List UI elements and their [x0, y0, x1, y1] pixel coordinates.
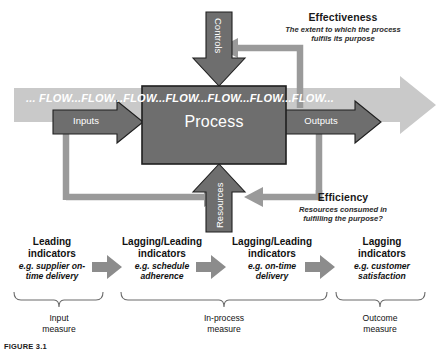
- flow-band-text: ... FLOW...FLOW...FLOW...FLOW...FLOW...F…: [26, 92, 334, 104]
- controls-label: Controls: [212, 18, 223, 53]
- efficiency-heading: Efficiency: [273, 192, 413, 204]
- indicator-4-example-line2: satisfaction: [338, 272, 426, 282]
- process-effectiveness-diagram: ... FLOW...FLOW...FLOW...FLOW...FLOW...F…: [0, 0, 438, 351]
- indicator-1-title-line1: Leading: [12, 236, 92, 248]
- indicator-2-example-line2: adherence: [114, 272, 210, 282]
- indicator-3-example-line2: delivery: [224, 272, 320, 282]
- outputs-label: Outputs: [288, 116, 354, 127]
- brace-in-process-measure: [121, 292, 327, 307]
- efficiency-description-line2: fulfilling the purpose?: [268, 215, 418, 224]
- inputs-label: Inputs: [55, 116, 117, 127]
- indicator-4-title-line2: indicators: [340, 248, 424, 260]
- effectiveness-heading: Effectiveness: [268, 12, 418, 24]
- indicator-2-title-line2: indicators: [114, 248, 210, 260]
- figure-caption: FIGURE 3.1: [4, 343, 47, 351]
- indicator-1-example-line2: time delivery: [8, 272, 96, 282]
- measure-2-line2: measure: [189, 324, 259, 334]
- process-box-label: Process: [142, 113, 286, 131]
- efficiency-rail-right-arrowhead: [244, 187, 263, 207]
- indicator-3-title-line2: indicators: [224, 248, 320, 260]
- indicator-1-title-line2: indicators: [12, 248, 92, 260]
- brace-input-measure: [14, 292, 103, 307]
- measure-1-line1: Input: [24, 313, 94, 323]
- indicator-3-title-line1: Lagging/Leading: [224, 236, 320, 248]
- brace-outcome-measure: [336, 292, 425, 307]
- effectiveness-description-line2: fulfils its purpose: [262, 35, 424, 44]
- indicator-2-title-line1: Lagging/Leading: [114, 236, 210, 248]
- measure-2-line1: In-process: [189, 313, 259, 323]
- measure-1-line2: measure: [24, 324, 94, 334]
- measure-3-line2: measure: [345, 324, 415, 334]
- measure-3-line1: Outcome: [345, 313, 415, 323]
- indicator-4-title-line1: Lagging: [340, 236, 424, 248]
- resources-label: Resources: [215, 183, 226, 228]
